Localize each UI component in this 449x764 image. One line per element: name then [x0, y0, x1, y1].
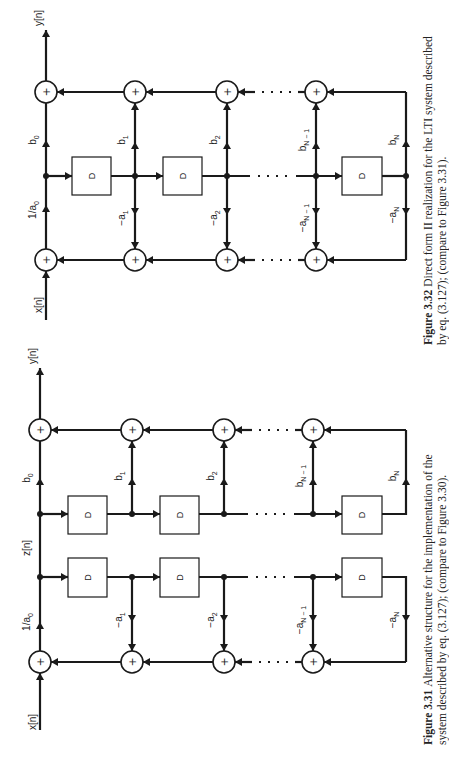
arrow-icon: [131, 242, 139, 249]
adder: +: [302, 419, 324, 441]
arrow-icon: [51, 426, 58, 434]
arrow-icon: [327, 256, 334, 264]
arrow-icon: [36, 622, 44, 629]
arrow-icon: [146, 88, 153, 96]
b0-arrow-icon: [42, 140, 50, 147]
delay-label: D: [87, 172, 97, 179]
arrow-icon: [220, 478, 228, 485]
arrow-icon: [309, 478, 317, 485]
delay-label: D: [178, 172, 188, 179]
delay-block: D: [342, 157, 382, 195]
arrow-icon: [312, 103, 320, 110]
delay-block: D: [160, 496, 199, 534]
adder: +: [124, 249, 146, 271]
adder-plus-sign: +: [40, 87, 53, 96]
coef-label-a: −aN − 1: [294, 606, 307, 634]
adder: +: [121, 651, 143, 673]
delay-label: D: [175, 511, 185, 518]
output-label: y[n]: [27, 348, 38, 364]
arrow-icon: [153, 510, 160, 518]
arrow-icon: [235, 658, 242, 666]
adder: +: [29, 419, 51, 441]
arrow-icon: [61, 573, 68, 581]
delay-label: D: [357, 511, 367, 518]
arrow-icon: [312, 142, 320, 149]
arrow-icon: [143, 426, 150, 434]
arrow-icon: [324, 658, 331, 666]
arrow-icon: [61, 510, 68, 518]
adder: +: [213, 419, 235, 441]
delay-block: D: [342, 496, 382, 534]
coef-label-b0: b0: [27, 135, 40, 145]
adder-plus-sign: +: [34, 657, 47, 666]
output-label: y[n]: [33, 10, 44, 26]
arrow-icon: [128, 478, 136, 485]
coef-label-b: b1: [113, 471, 126, 481]
delay-block: D: [160, 558, 199, 597]
arrow-icon: [128, 615, 136, 622]
figure-3-31: y[n]x[n]b01/a0z[n]++DDDDDD++b1−a1++b2−a2…: [21, 348, 449, 745]
adder-plus-sign: +: [307, 657, 320, 666]
adder: +: [35, 81, 57, 103]
output-arrow-icon: [36, 368, 44, 375]
arrow-icon: [131, 142, 139, 149]
arrow-icon: [309, 441, 317, 448]
block-diagrams: y[n]x[n]b01/a0++DDD++b1−a1++b2−a2++bN − …: [0, 0, 449, 764]
arrow-icon: [312, 242, 320, 249]
delay-block: D: [68, 558, 107, 597]
input-arrow-icon: [42, 271, 50, 278]
junction-node: [403, 173, 409, 179]
adder-plus-sign: +: [40, 255, 53, 264]
coef-label-a: −a1: [113, 612, 126, 627]
arrow-icon: [220, 615, 228, 622]
arrow-icon: [402, 140, 410, 147]
arrow-icon: [51, 658, 58, 666]
arrow-icon: [235, 426, 242, 434]
adder: +: [305, 249, 327, 271]
arrow-icon: [335, 172, 342, 180]
arrow-icon: [327, 88, 334, 96]
coef-label-aN: −aN: [387, 612, 400, 628]
gain-arrow-icon: [42, 205, 50, 212]
adder: +: [124, 81, 146, 103]
input-label: x[n]: [27, 714, 38, 730]
adder-plus-sign: +: [126, 657, 139, 666]
adder: +: [29, 651, 51, 673]
coef-label-b0: b0: [21, 473, 34, 483]
input-label: x[n]: [33, 297, 44, 313]
arrow-icon: [309, 644, 317, 651]
arrow-icon: [131, 208, 139, 215]
adder: +: [302, 651, 324, 673]
adder: +: [35, 249, 57, 271]
arrow-icon: [402, 208, 410, 215]
coef-label-a: −aN − 1: [297, 204, 310, 232]
adder: +: [305, 81, 327, 103]
intermediate-label: z[n]: [21, 540, 32, 556]
coef-label-b: b1: [116, 135, 129, 145]
arrow-icon: [223, 208, 231, 215]
adder-plus-sign: +: [34, 425, 47, 434]
coef-label-a: −a2: [208, 210, 221, 225]
arrow-icon: [223, 242, 231, 249]
input-arrow-icon: [36, 673, 44, 680]
arrow-icon: [143, 658, 150, 666]
adder-plus-sign: +: [126, 425, 139, 434]
adder-plus-sign: +: [129, 255, 142, 264]
delay-label: D: [83, 574, 93, 581]
gain-label: 1/a0: [27, 201, 40, 219]
coef-label-b: bN − 1: [294, 465, 307, 488]
adder: +: [216, 249, 238, 271]
adder-plus-sign: +: [218, 657, 231, 666]
delay-label: D: [357, 172, 367, 179]
arrow-icon: [335, 510, 342, 518]
adder-plus-sign: +: [310, 87, 323, 96]
arrow-icon: [156, 172, 163, 180]
adder-plus-sign: +: [129, 87, 142, 96]
coef-label-a: −a1: [116, 210, 129, 225]
arrow-icon: [57, 256, 64, 264]
coef-label-b: b2: [208, 135, 221, 145]
arrow-icon: [335, 573, 342, 581]
delay-block: D: [72, 157, 111, 195]
adder-plus-sign: +: [221, 255, 234, 264]
coef-label-b: b2: [205, 471, 218, 481]
